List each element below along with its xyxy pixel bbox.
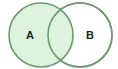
venn-svg: A B [0, 0, 118, 69]
set-a-label: A [26, 29, 34, 41]
set-b-label: B [86, 29, 94, 41]
venn-diagram: A B [0, 0, 118, 69]
